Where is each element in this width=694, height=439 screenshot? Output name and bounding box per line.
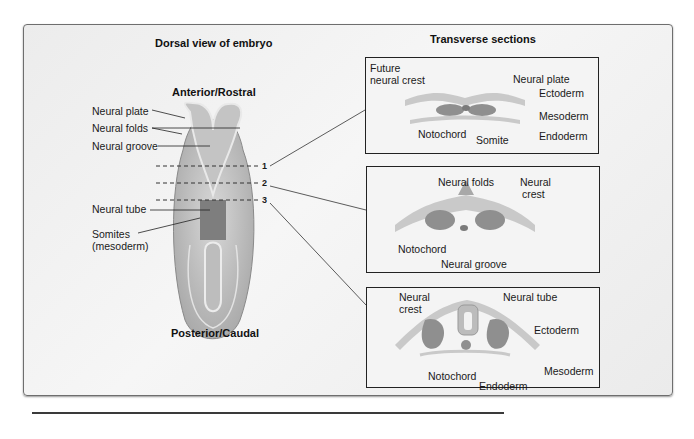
connector-3: [270, 203, 366, 305]
s2-neural-crest: Neural: [520, 176, 551, 188]
s3-neural-crest: Neural: [399, 291, 430, 303]
s1-notochord: Notochord: [418, 128, 466, 140]
s1-future-neural-crest-2: neural crest: [370, 74, 425, 86]
s1-endoderm: Endoderm: [539, 130, 587, 142]
s3-mesoderm: Mesoderm: [544, 365, 594, 377]
s1-somite: Somite: [476, 134, 509, 146]
s2-neural-folds: Neural folds: [438, 176, 494, 188]
left-panel-title: Dorsal view of embryo: [155, 37, 272, 49]
label-somites-sub: (mesoderm): [92, 240, 149, 252]
s2-notochord: Notochord: [398, 243, 446, 255]
connector-1: [270, 110, 365, 166]
label-neural-folds: Neural folds: [92, 122, 148, 134]
connector-2: [270, 186, 366, 210]
anterior-label: Anterior/Rostral: [172, 86, 256, 98]
s3-endoderm: Endoderm: [479, 380, 527, 392]
label-neural-plate: Neural plate: [92, 105, 149, 117]
s1-mesoderm: Mesoderm: [539, 110, 589, 122]
posterior-label: Posterior/Caudal: [171, 327, 259, 339]
s3-neural-crest-2: crest: [399, 303, 422, 315]
s2-neural-crest-2: crest: [522, 188, 545, 200]
section-marker-3: 3: [262, 194, 267, 206]
right-panel-title: Transverse sections: [430, 33, 536, 45]
embryo-dorsal-view: [173, 102, 253, 338]
s3-neural-tube: Neural tube: [503, 291, 557, 303]
s2-neural-groove: Neural groove: [441, 258, 507, 270]
label-neural-groove: Neural groove: [92, 140, 158, 152]
s3-ectoderm: Ectoderm: [534, 324, 579, 336]
s1-future-neural-crest: Future: [370, 62, 400, 74]
section-marker-1: 1: [262, 160, 267, 172]
section-marker-2: 2: [262, 177, 267, 189]
s1-neural-plate: Neural plate: [513, 73, 570, 85]
s3-notochord: Notochord: [428, 370, 476, 382]
label-neural-tube: Neural tube: [92, 203, 146, 215]
label-somites: Somites: [92, 228, 130, 240]
section-1-illustration: [405, 93, 525, 124]
s1-ectoderm: Ectoderm: [539, 87, 584, 99]
